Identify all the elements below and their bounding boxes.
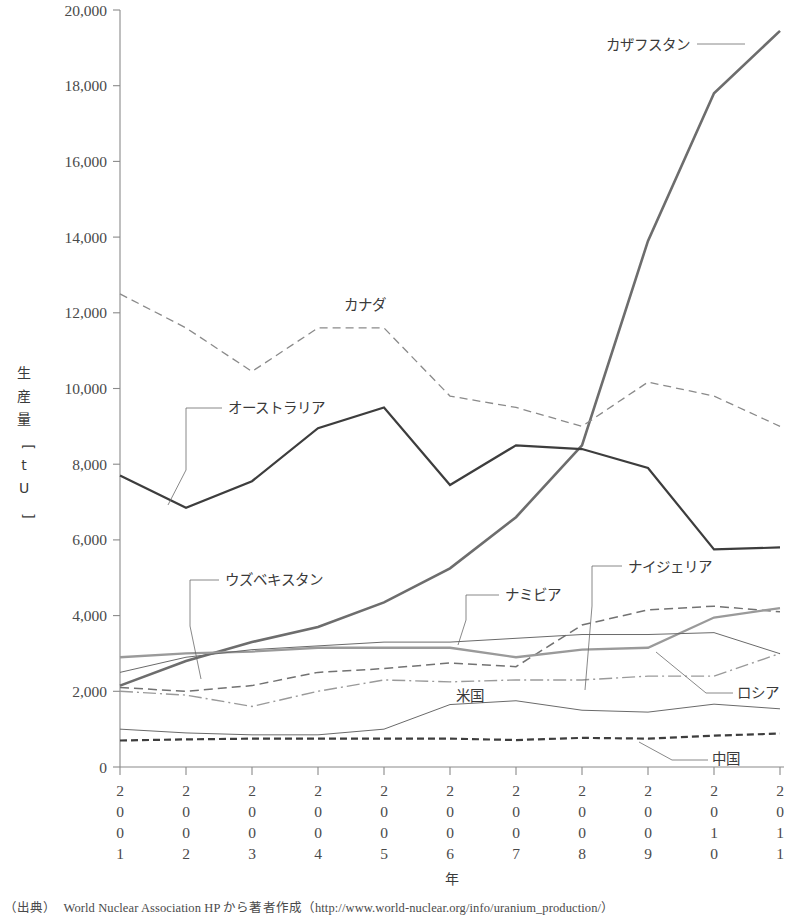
x-tick-label: 2008: [578, 782, 586, 862]
x-tick-digit: 0: [644, 803, 652, 820]
y-tick-label: 14,000: [64, 229, 107, 246]
y-axis-title-char: ]: [21, 513, 37, 518]
x-tick-digit: 2: [512, 782, 520, 799]
x-tick-digit: 6: [446, 845, 454, 862]
x-tick-label: 2011: [776, 782, 784, 862]
y-axis-title-char: 生: [17, 365, 31, 381]
series-line-australia: [120, 407, 780, 549]
x-tick-digit: 9: [644, 845, 652, 862]
x-tick-digit: 0: [182, 803, 190, 820]
x-tick-digit: 8: [578, 845, 586, 862]
x-tick-digit: 4: [314, 845, 322, 862]
x-tick-digit: 0: [710, 845, 718, 862]
x-tick-label: 2009: [644, 782, 652, 862]
x-tick-digit: 0: [248, 803, 256, 820]
y-axis-title-char: t: [21, 457, 27, 473]
x-tick-digit: 2: [644, 782, 652, 799]
y-tick-label: 12,000: [64, 304, 107, 321]
y-tick-label: 18,000: [64, 77, 107, 94]
x-tick-digit: 1: [710, 824, 718, 841]
series-labels: カザフスタンカナダオーストラリアナイジェリアナミビアウズベキスタンロシア米国中国: [225, 37, 779, 767]
x-tick-digit: 2: [710, 782, 718, 799]
x-tick-digit: 0: [578, 803, 586, 820]
x-tick-digit: 2: [182, 845, 190, 862]
leader-line-russia: [656, 652, 733, 693]
y-axis-ticks: 02,0004,0006,0008,00010,00012,00014,0001…: [64, 2, 120, 776]
x-tick-digit: 2: [578, 782, 586, 799]
x-tick-label: 2005: [380, 782, 388, 862]
x-tick-digit: 0: [512, 803, 520, 820]
y-tick-label: 8,000: [72, 456, 107, 473]
x-tick-digit: 1: [776, 824, 784, 841]
series-label-canada: カナダ: [344, 297, 386, 313]
x-tick-digit: 0: [512, 824, 520, 841]
series-line-uzbekistan: [120, 653, 780, 706]
series-label-russia: ロシア: [737, 685, 779, 701]
x-tick-digit: 0: [182, 824, 190, 841]
series-label-namibia: ナミビア: [505, 587, 561, 603]
uranium-production-line-chart: 02,0004,0006,0008,00010,00012,00014,0001…: [0, 0, 799, 917]
x-tick-digit: 3: [248, 845, 256, 862]
series-label-usa: 米国: [456, 688, 484, 704]
x-tick-digit: 0: [710, 803, 718, 820]
x-tick-label: 2001: [116, 782, 124, 862]
series-label-kazakhstan: カザフスタン: [606, 37, 690, 53]
x-tick-digit: 0: [776, 803, 784, 820]
x-tick-digit: 2: [248, 782, 256, 799]
x-tick-label: 2002: [182, 782, 190, 862]
x-tick-digit: 0: [314, 803, 322, 820]
x-tick-digit: 2: [380, 782, 388, 799]
leader-line-namibia: [458, 595, 499, 645]
y-tick-label: 6,000: [72, 531, 107, 548]
x-tick-digit: 1: [116, 845, 124, 862]
x-tick-label: 2006: [446, 782, 454, 862]
series-lines: [120, 31, 780, 741]
series-line-namibia: [120, 608, 780, 657]
series-label-niger: ナイジェリア: [628, 559, 712, 575]
y-axis-title-char: [: [21, 444, 37, 449]
x-tick-digit: 0: [380, 824, 388, 841]
x-tick-digit: 0: [314, 824, 322, 841]
series-line-kazakhstan: [120, 31, 780, 686]
x-tick-digit: 5: [380, 845, 388, 862]
x-tick-digit: 0: [248, 824, 256, 841]
x-tick-label: 2004: [314, 782, 322, 862]
y-axis-title-char: 産: [17, 388, 31, 404]
y-tick-label: 16,000: [64, 153, 107, 170]
leader-line-niger: [585, 566, 622, 690]
source-note: （出典） World Nuclear Association HP から著者作成…: [4, 897, 614, 916]
figure-container: 02,0004,0006,0008,00010,00012,00014,0001…: [0, 0, 799, 917]
x-tick-digit: 0: [116, 803, 124, 820]
x-tick-digit: 2: [446, 782, 454, 799]
y-tick-label: 2,000: [72, 683, 107, 700]
leader-line-uzbekistan: [190, 580, 219, 679]
x-axis-ticks: 2001200220032004200520062007200820092010…: [116, 767, 784, 862]
series-line-china: [120, 734, 780, 741]
x-tick-digit: 0: [446, 824, 454, 841]
series-label-china: 中国: [712, 751, 740, 767]
leader-line-australia: [168, 408, 222, 505]
leader-line-china: [639, 742, 708, 760]
x-tick-digit: 1: [776, 845, 784, 862]
y-tick-label: 20,000: [64, 2, 107, 19]
x-tick-digit: 0: [578, 824, 586, 841]
x-tick-label: 2007: [512, 782, 520, 862]
series-line-usa: [120, 701, 780, 735]
y-axis-title: 生産量[tU]: [17, 365, 37, 519]
x-tick-digit: 0: [644, 824, 652, 841]
series-line-canada: [120, 294, 780, 426]
y-tick-label: 4,000: [72, 607, 107, 624]
x-tick-digit: 2: [182, 782, 190, 799]
y-tick-label: 10,000: [64, 380, 107, 397]
x-tick-digit: 7: [512, 845, 520, 862]
series-label-australia: オーストラリア: [228, 400, 325, 416]
x-tick-digit: 0: [446, 803, 454, 820]
x-tick-label: 2010: [710, 782, 718, 862]
y-tick-label: 0: [99, 759, 107, 776]
x-tick-label: 2003: [248, 782, 256, 862]
x-tick-digit: 2: [116, 782, 124, 799]
x-tick-digit: 0: [116, 824, 124, 841]
x-axis-title: 年: [445, 871, 459, 887]
y-axis-title-char: 量: [17, 411, 31, 427]
x-tick-digit: 0: [380, 803, 388, 820]
